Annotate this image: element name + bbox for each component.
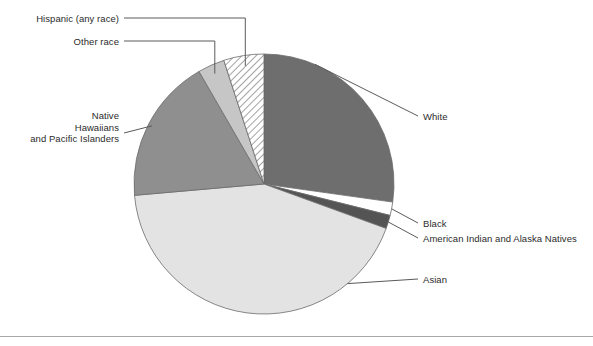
leader-line-other-race bbox=[124, 41, 215, 74]
callout-text-american-indian: American Indian and Alaska Natives bbox=[423, 233, 577, 244]
callout-text-other-race: Other race bbox=[74, 36, 119, 47]
callout-label-american-indian: American Indian and Alaska Natives bbox=[423, 233, 577, 245]
leader-line-hispanic bbox=[124, 18, 245, 66]
callout-text-native-line2: Hawaiians bbox=[10, 122, 119, 134]
callout-label-white: White bbox=[423, 111, 448, 123]
callout-text-black: Black bbox=[423, 218, 446, 229]
pie-chart-figure: Hispanic (any race) Other race Native Ha… bbox=[0, 0, 593, 346]
callout-label-asian: Asian bbox=[423, 274, 447, 286]
callout-label-hispanic: Hispanic (any race) bbox=[14, 13, 119, 25]
callout-label-other-race: Other race bbox=[14, 36, 119, 48]
callout-text-native-line1: Native bbox=[10, 110, 119, 122]
callout-text-asian: Asian bbox=[423, 274, 447, 285]
callout-text-native-line3: and Pacific Islanders bbox=[10, 133, 119, 145]
callout-label-black: Black bbox=[423, 218, 446, 230]
callout-text-white: White bbox=[423, 111, 448, 122]
pie-slices bbox=[134, 54, 394, 314]
callout-label-native-hawaiians: Native Hawaiians and Pacific Islanders bbox=[10, 110, 119, 145]
pie-slice-white[interactable] bbox=[264, 54, 394, 202]
pie-chart-svg bbox=[0, 0, 593, 346]
callout-text-hispanic: Hispanic (any race) bbox=[36, 13, 119, 24]
leader-line-asian bbox=[348, 279, 418, 284]
leader-line-american-indian bbox=[388, 222, 418, 238]
leader-line-black bbox=[392, 209, 418, 223]
